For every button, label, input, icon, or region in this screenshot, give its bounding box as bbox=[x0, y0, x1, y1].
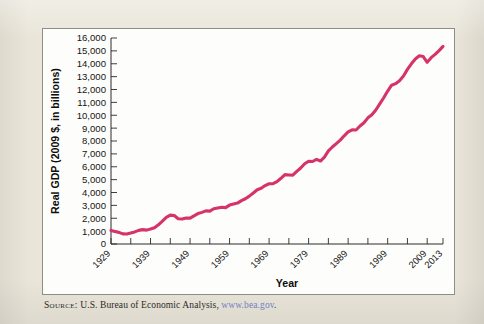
y-tick-label: 8,000 bbox=[82, 135, 106, 146]
y-tick-label: 4,000 bbox=[82, 187, 106, 198]
x-tick-label: 1989 bbox=[327, 248, 350, 271]
gdp-series bbox=[111, 46, 443, 234]
figure-panel: 16,00015,00014,00013,00012,00011,00010,0… bbox=[42, 28, 455, 295]
y-tick-label: 13,000 bbox=[77, 71, 106, 82]
gdp-line-chart: 16,00015,00014,00013,00012,00011,00010,0… bbox=[43, 29, 454, 294]
x-tick-label: 1929 bbox=[90, 248, 113, 271]
y-tick-label: 12,000 bbox=[77, 84, 106, 95]
y-tick-label: 16,000 bbox=[77, 32, 106, 43]
x-tick-label: 1939 bbox=[129, 248, 152, 271]
gdp-line-path bbox=[111, 46, 443, 234]
x-tick-label: 2013 bbox=[422, 248, 445, 271]
chart-area: 16,00015,00014,00013,00012,00011,00010,0… bbox=[43, 29, 454, 294]
y-tick-label: 6,000 bbox=[82, 161, 106, 172]
x-tick-label: 1959 bbox=[208, 248, 231, 271]
source-note: Source: U.S. Bureau of Economic Analysis… bbox=[44, 300, 464, 310]
y-axis: 16,00015,00014,00013,00012,00011,00010,0… bbox=[77, 32, 117, 249]
y-tick-label: 10,000 bbox=[77, 110, 106, 121]
y-tick-label: 3,000 bbox=[82, 200, 106, 211]
y-tick-label: 9,000 bbox=[82, 123, 106, 134]
page-background: 16,00015,00014,00013,00012,00011,00010,0… bbox=[0, 0, 484, 324]
source-trailing-period: . bbox=[274, 300, 276, 310]
y-axis-title: Real GDP (2009 $, in billions) bbox=[49, 68, 61, 214]
y-tick-label: 1,000 bbox=[82, 226, 106, 237]
x-tick-label: 1979 bbox=[288, 248, 311, 271]
y-tick-label: 5,000 bbox=[82, 174, 106, 185]
y-tick-label: 14,000 bbox=[77, 58, 106, 69]
y-tick-label: 11,000 bbox=[77, 97, 106, 108]
x-tick-label: 1999 bbox=[367, 248, 390, 271]
y-tick-label: 15,000 bbox=[77, 45, 106, 56]
x-tick-label: 1969 bbox=[248, 248, 271, 271]
source-url-link[interactable]: www.bea.gov bbox=[221, 300, 274, 310]
y-tick-label: 2,000 bbox=[82, 213, 106, 224]
source-label: Source: bbox=[44, 300, 78, 310]
x-tick-label: 1949 bbox=[169, 248, 192, 271]
y-tick-label: 7,000 bbox=[82, 148, 106, 159]
x-axis-title: Year bbox=[276, 277, 298, 289]
x-axis: 1929193919491959196919791989199920092013 bbox=[90, 238, 445, 270]
source-text: U.S. Bureau of Economic Analysis, bbox=[78, 300, 222, 310]
